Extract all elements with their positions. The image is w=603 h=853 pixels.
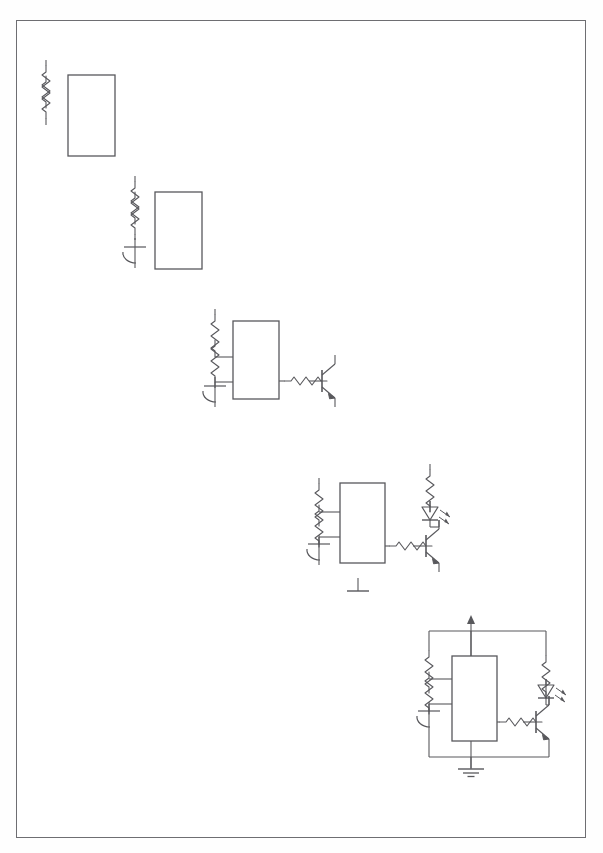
ic-block: [155, 192, 202, 269]
stage-3-group: [203, 309, 335, 407]
resistor-r2: [211, 340, 219, 382]
capacitor-c1: [123, 238, 146, 268]
ic-block: [68, 75, 115, 156]
stage-5-group: [417, 615, 566, 777]
transistor-q1: [523, 696, 549, 748]
capacitor-c1: [307, 535, 330, 565]
stage-1-group: [42, 60, 115, 156]
led-d1: [538, 679, 566, 705]
transistor-q1: [413, 520, 439, 572]
schematic-page: [0, 0, 603, 853]
schematic-drawing: [0, 0, 603, 853]
led-d1: [422, 501, 450, 527]
resistor-rl: [542, 656, 550, 698]
capacitor-c1: [417, 702, 440, 732]
ground-multi: [458, 757, 484, 777]
stage-4-group: [307, 464, 450, 591]
ic-block: [452, 656, 497, 741]
ic-block: [340, 483, 385, 563]
transistor-q1: [309, 355, 335, 407]
ground-single: [347, 578, 369, 591]
stage-2-group: [123, 176, 202, 269]
ic-block: [233, 321, 279, 399]
